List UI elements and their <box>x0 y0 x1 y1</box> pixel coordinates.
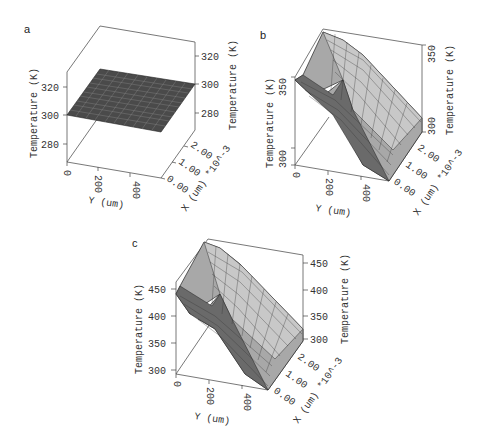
y-tick: 0 <box>61 170 72 176</box>
surface-plot-b: b <box>243 0 486 224</box>
z-tick: 450 <box>310 259 328 270</box>
surface-mesh <box>295 32 422 181</box>
y-axis-label: Y (um) <box>88 195 125 211</box>
panel-a: a <box>0 0 243 224</box>
z-tick: 400 <box>310 286 328 297</box>
x-tick: 2.00 <box>415 142 441 165</box>
panel-label: b <box>260 29 266 41</box>
z-axis-label: Temperature (K) <box>265 78 276 168</box>
z-axis-label: Temperature (K) <box>29 68 40 158</box>
z-tick: 300 <box>427 117 438 135</box>
x-tick: 2.00 <box>188 139 214 162</box>
y-tick: 200 <box>204 387 215 405</box>
z-axis-label-right: Temperature (K) <box>445 45 456 135</box>
z-tick: 280 <box>201 109 219 120</box>
x-tick: 1.00 <box>283 368 309 391</box>
z-tick: 320 <box>41 83 59 94</box>
x-tick: 0.00 <box>391 176 417 199</box>
x-tick: 1.00 <box>176 156 202 179</box>
panel-label: c <box>132 237 138 249</box>
z-tick: 300 <box>201 80 219 91</box>
surface-mesh <box>176 242 303 390</box>
x-tick: 2.00 <box>295 351 321 374</box>
z-tick: 300 <box>41 111 59 122</box>
z-tick: 350 <box>310 312 328 323</box>
z-tick: 300 <box>310 335 328 346</box>
z-tick: 300 <box>278 150 289 168</box>
y-tick: 0 <box>290 172 301 178</box>
z-tick: 400 <box>148 312 166 323</box>
panel-c: c <box>120 224 363 448</box>
z-tick: 350 <box>148 339 166 350</box>
surface-plot-a: a <box>0 0 243 224</box>
y-tick: 400 <box>241 393 252 411</box>
y-tick: 200 <box>323 178 334 196</box>
y-tick: 400 <box>360 184 371 202</box>
z-axis-label: Temperature (K) <box>134 284 145 374</box>
z-axis-label-right: Temperature (K) <box>340 254 351 344</box>
y-tick: 0 <box>171 381 182 387</box>
x-tick: 1.00 <box>403 159 429 182</box>
z-tick: 450 <box>148 285 166 296</box>
y-axis-label: Y (um) <box>194 411 231 427</box>
z-tick: 350 <box>278 78 289 96</box>
x-tick: 0.00 <box>271 385 297 408</box>
surface-mesh <box>67 69 195 132</box>
surface-plot-c: c <box>120 224 363 448</box>
y-tick: 400 <box>130 181 141 199</box>
x-tick: 0.00 <box>164 173 190 196</box>
y-axis-label: Y (um) <box>315 203 352 219</box>
z-tick: 350 <box>427 45 438 63</box>
z-tick: 280 <box>41 140 59 151</box>
panel-label: a <box>24 23 31 35</box>
z-tick: 320 <box>201 52 219 63</box>
z-tick: 300 <box>148 366 166 377</box>
z-axis-label-right: Temperature (K) <box>228 40 239 130</box>
y-tick: 200 <box>92 175 103 193</box>
panel-b: b <box>243 0 486 224</box>
